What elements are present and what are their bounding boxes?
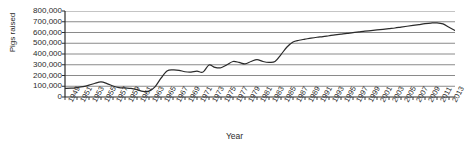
data-series-layer <box>65 23 455 92</box>
y-tick-label: 600,000 <box>33 29 62 37</box>
y-tick-label: 500,000 <box>33 39 62 47</box>
series-line <box>65 23 455 92</box>
plot-area <box>65 11 455 97</box>
pigs-raised-line-chart: Pigs raised 0100,000200,000300,000400,00… <box>0 0 469 150</box>
y-axis-tick-labels: 0100,000200,000300,000400,000500,000600,… <box>0 0 62 150</box>
y-tick-label: 700,000 <box>33 18 62 26</box>
y-tick-label: 400,000 <box>33 50 62 58</box>
y-tick-label: 300,000 <box>33 61 62 69</box>
chart-canvas <box>65 11 455 97</box>
x-axis-tick-marks <box>65 97 449 100</box>
y-tick-label: 100,000 <box>33 82 62 90</box>
y-tick-label: 0 <box>58 93 62 101</box>
gridlines <box>65 11 455 86</box>
y-tick-label: 200,000 <box>33 72 62 80</box>
x-axis-title: Year <box>0 131 469 141</box>
y-tick-label: 800,000 <box>33 7 62 15</box>
